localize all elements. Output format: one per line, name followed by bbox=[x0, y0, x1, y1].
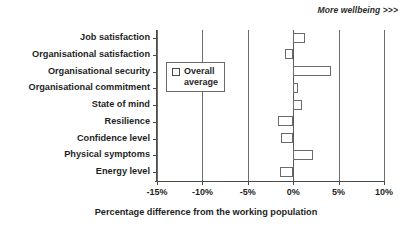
bar bbox=[280, 167, 293, 177]
x-axis-tick bbox=[157, 181, 158, 185]
category-row: Job satisfaction bbox=[157, 30, 384, 47]
category-row: Resilience bbox=[157, 114, 384, 131]
y-axis-tick bbox=[153, 172, 157, 173]
bar bbox=[293, 83, 298, 93]
category-label: State of mind bbox=[92, 98, 150, 111]
x-axis-tick-label: -10% bbox=[192, 187, 213, 197]
gridline-10 bbox=[384, 30, 385, 181]
x-axis-tick-label: -5% bbox=[240, 187, 256, 197]
category-row: Physical symptoms bbox=[157, 147, 384, 164]
y-axis-tick bbox=[153, 72, 157, 73]
value-axis-line bbox=[155, 181, 385, 182]
x-axis-tick-label: 0% bbox=[287, 187, 300, 197]
x-axis-tick-label: 5% bbox=[332, 187, 345, 197]
x-axis-tick bbox=[339, 181, 340, 185]
y-axis-tick bbox=[153, 155, 157, 156]
category-label: Job satisfaction bbox=[80, 31, 150, 44]
x-axis-title: Percentage difference from the working p… bbox=[0, 207, 412, 217]
bar bbox=[293, 100, 302, 110]
bar bbox=[293, 66, 331, 76]
bar bbox=[278, 116, 293, 126]
y-axis-tick bbox=[153, 88, 157, 89]
bar bbox=[293, 150, 313, 160]
bar bbox=[281, 133, 293, 143]
chart-container: More wellbeing >>> -15%-10%-5%0%5%10%Job… bbox=[0, 0, 412, 231]
bar bbox=[285, 49, 293, 59]
y-axis-tick bbox=[153, 38, 157, 39]
legend-label: Overall average bbox=[184, 66, 218, 87]
plot-area: -15%-10%-5%0%5%10%Job satisfactionOrgani… bbox=[157, 30, 384, 181]
x-axis-tick-label: -15% bbox=[146, 187, 167, 197]
category-row: Energy level bbox=[157, 164, 384, 181]
square-outline-icon bbox=[172, 68, 180, 76]
x-axis-tick bbox=[384, 181, 385, 185]
x-axis-tick bbox=[293, 181, 294, 185]
category-label: Organisational security bbox=[48, 65, 150, 78]
y-axis-tick bbox=[153, 105, 157, 106]
x-axis-tick-label: 10% bbox=[375, 187, 393, 197]
legend: Overall average bbox=[166, 62, 225, 92]
x-axis-tick bbox=[202, 181, 203, 185]
y-axis-tick bbox=[153, 139, 157, 140]
category-label: Confidence level bbox=[77, 132, 150, 145]
category-label: Organisational commitment bbox=[28, 81, 150, 94]
more-wellbeing-annotation: More wellbeing >>> bbox=[318, 5, 398, 15]
y-axis-tick bbox=[153, 122, 157, 123]
x-axis-tick bbox=[248, 181, 249, 185]
y-axis-tick bbox=[153, 55, 157, 56]
category-label: Resilience bbox=[105, 115, 150, 128]
category-label: Organisational satisfaction bbox=[32, 48, 150, 61]
category-label: Physical symptoms bbox=[64, 148, 150, 161]
category-label: Energy level bbox=[96, 165, 150, 178]
category-row: State of mind bbox=[157, 97, 384, 114]
category-row: Confidence level bbox=[157, 131, 384, 148]
bar bbox=[293, 33, 305, 43]
